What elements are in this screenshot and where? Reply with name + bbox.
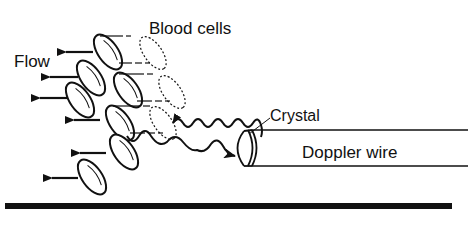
ultrasound-waves [127, 119, 262, 156]
flow-label: Flow [14, 53, 50, 70]
blood-cells-previous [135, 32, 191, 143]
blood-cells-label: Blood cells [149, 20, 231, 37]
crystal-icon [238, 130, 257, 166]
crystal-label: Crystal [270, 108, 320, 124]
vessel-wall [5, 203, 452, 209]
doppler-wire-label: Doppler wire [302, 144, 397, 161]
blood-cells [60, 30, 147, 199]
doppler-diagram: Blood cells Flow Crystal Doppler wire [0, 0, 475, 228]
diagram-graphic [0, 0, 475, 228]
